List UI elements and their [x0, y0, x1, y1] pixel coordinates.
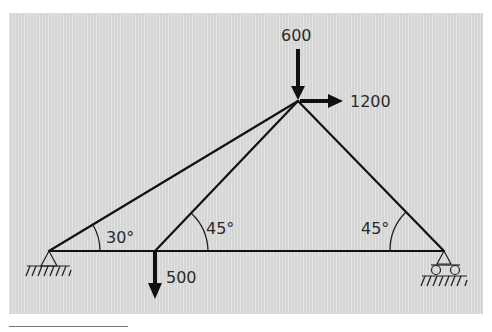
load-label-1200: 1200 [350, 92, 391, 111]
angle-arc-d [390, 212, 406, 251]
load-1200-arrow [300, 94, 343, 108]
pin-support-icon [26, 251, 71, 276]
load-600-arrow [291, 49, 305, 100]
angle-arcs [93, 212, 406, 251]
arrowhead-right-icon [328, 94, 343, 108]
arrowhead-down-icon [148, 283, 162, 299]
roller-support-icon [421, 251, 467, 286]
angle-label-45-right: 45° [361, 219, 389, 238]
truss-diagram: 30° 45° 45° 600 1200 500 [0, 0, 492, 332]
load-label-600: 600 [281, 26, 312, 45]
angle-label-30: 30° [106, 228, 134, 247]
member-left-rafter [49, 101, 298, 251]
load-500-arrow [148, 252, 162, 299]
angle-arc-a [93, 225, 100, 251]
angle-label-45-left: 45° [206, 219, 234, 238]
arrowhead-down-icon [291, 86, 305, 100]
load-label-500: 500 [166, 268, 197, 287]
